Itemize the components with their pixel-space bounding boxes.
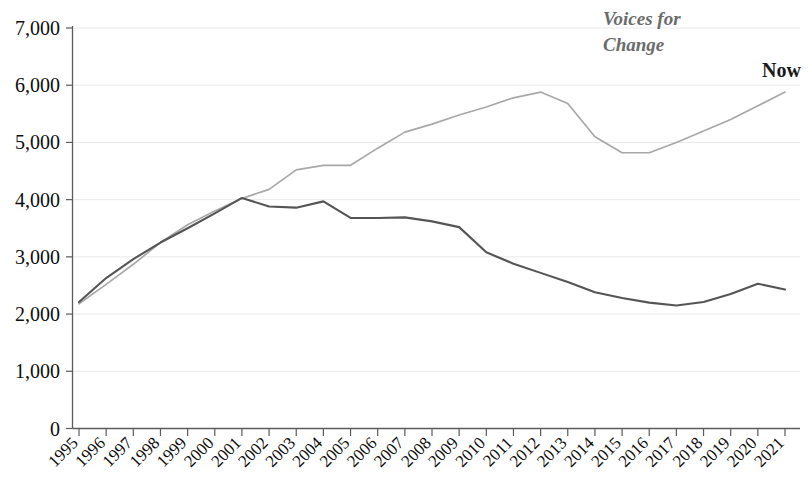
y-tick-label: 6,000 (15, 74, 60, 96)
y-axis-group (66, 26, 73, 429)
series-label-now: Now (762, 59, 801, 81)
y-tick-label: 2,000 (15, 303, 60, 325)
x-tick-marks (79, 429, 785, 437)
series-label-voices-for-change-line2: Change (603, 34, 665, 55)
y-tick-label: 0 (50, 418, 60, 440)
x-tick-label: 2021 (750, 433, 787, 470)
series-labels-group: Voices for Change Now (603, 8, 801, 81)
y-tick-marks (66, 28, 73, 429)
series-line-voices-for-change (79, 92, 785, 304)
y-tick-label: 5,000 (15, 131, 60, 153)
y-tick-label: 3,000 (15, 246, 60, 268)
series-label-voices-for-change-line1: Voices for (603, 8, 681, 29)
y-axis-tick-labels: 7,0006,0005,0004,0003,0002,0001,0000 (15, 17, 60, 440)
series-line-now (79, 198, 785, 306)
chart-canvas: 7,0006,0005,0004,0003,0002,0001,0000 199… (0, 0, 812, 488)
gridlines-group (72, 28, 800, 371)
y-tick-label: 7,000 (15, 17, 60, 39)
line-chart: 7,0006,0005,0004,0003,0002,0001,0000 199… (0, 0, 812, 488)
data-series-group (79, 92, 785, 305)
y-tick-label: 1,000 (15, 360, 60, 382)
x-axis-tick-labels: 1995199619971998199920002001200220032004… (44, 433, 787, 471)
y-tick-label: 4,000 (15, 189, 60, 211)
